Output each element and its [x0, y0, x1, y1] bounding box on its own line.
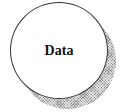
diagram-canvas: Data [0, 0, 125, 112]
node-label: Data [45, 44, 74, 58]
data-node-circle: Data [10, 2, 108, 99]
